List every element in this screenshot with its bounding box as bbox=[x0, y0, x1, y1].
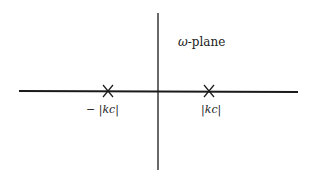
point-label-negative: − |kc| bbox=[86, 104, 119, 115]
complex-plane-diagram bbox=[0, 0, 312, 178]
point-label-positive: |kc| bbox=[201, 104, 221, 115]
omega-symbol: ω bbox=[178, 35, 188, 49]
kc-symbol: kc bbox=[102, 103, 115, 116]
plane-label: ω-plane bbox=[178, 36, 225, 48]
kc-symbol: kc bbox=[205, 103, 218, 116]
plane-suffix: -plane bbox=[188, 35, 226, 49]
